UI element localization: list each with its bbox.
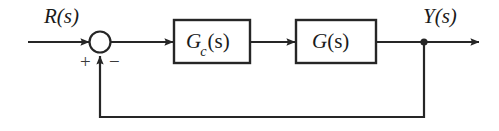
plant-arg-text: (s) xyxy=(327,29,349,53)
controller-subscript-text: c xyxy=(200,43,206,59)
input-signal-label: R(s) xyxy=(44,6,79,27)
controller-block-label: Gc(s) xyxy=(186,31,230,55)
block-diagram-canvas: R(s) Y(s) + − Gc(s) G(s) xyxy=(0,0,499,131)
output-signal-label: Y(s) xyxy=(423,6,457,27)
summing-junction-circle xyxy=(90,32,111,53)
input-signal-text: R(s) xyxy=(44,4,79,28)
summing-junction-plus-sign: + xyxy=(80,52,91,71)
controller-base-text: G xyxy=(186,29,201,53)
output-signal-text: Y(s) xyxy=(423,4,457,28)
plant-base-text: G xyxy=(312,29,327,53)
plant-block-label: G(s) xyxy=(312,31,349,52)
summing-junction-minus-sign: − xyxy=(109,52,120,71)
controller-arg-text: (s) xyxy=(208,29,230,53)
plus-sign-text: + xyxy=(80,51,91,72)
minus-sign-text: − xyxy=(109,51,120,72)
